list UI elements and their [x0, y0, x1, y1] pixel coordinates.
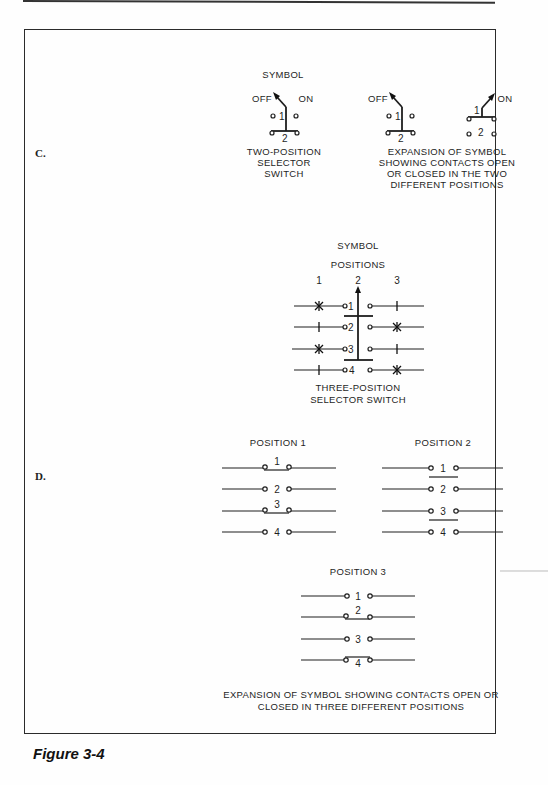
contact-terminal: [387, 114, 391, 118]
lever-arm: [393, 97, 402, 107]
contact-2-label: 2: [398, 133, 404, 144]
bottom-caption-line: CLOSED IN THREE DIFFERENT POSITIONS: [258, 701, 465, 712]
off-label: OFF: [252, 93, 272, 104]
contact-number: 4: [349, 365, 355, 376]
caption-line: TWO-POSITION: [247, 146, 321, 157]
position-number: 3: [394, 275, 400, 286]
lever-arm: [277, 97, 286, 107]
bottom-caption-line: EXPANSION OF SYMBOL SHOWING CONTACTS OPE…: [223, 689, 498, 700]
off-label: OFF: [368, 93, 388, 104]
caption-line: OR CLOSED IN THE TWO: [387, 168, 507, 179]
contact-2-label: 2: [478, 127, 484, 138]
contact-1-label: 1: [279, 111, 285, 122]
contact-number: 2: [440, 484, 446, 495]
contact-number: 4: [355, 658, 361, 669]
contact-number: 3: [440, 506, 446, 517]
caption-line: SELECTOR: [257, 157, 310, 168]
three-position-symbol: SYMBOL POSITIONS 1 2 3 1 2 3: [292, 240, 424, 405]
caption-line: THREE-POSITION: [316, 382, 401, 393]
caption-line: SWITCH: [264, 168, 303, 179]
contact-number: 1: [274, 456, 280, 467]
contact-number: 4: [440, 527, 446, 538]
contact-number: 1: [348, 301, 354, 312]
lever-arm: [482, 98, 491, 108]
position-number: 1: [316, 275, 322, 286]
position-1-view: POSITION 1 1 2 3 4: [222, 437, 336, 538]
section-label-c: C.: [35, 147, 46, 159]
position-number: 2: [355, 275, 361, 286]
on-label: ON: [299, 93, 314, 104]
contact-number: 2: [348, 322, 354, 333]
contact-terminal: [492, 117, 496, 121]
contact-2-label: 2: [282, 133, 288, 144]
contact-number: 1: [440, 463, 446, 474]
contact-terminal: [467, 117, 471, 121]
contact-terminal: [467, 132, 471, 136]
contact-1-label: 1: [474, 105, 480, 116]
position-title: POSITION 1: [250, 437, 306, 448]
contact-terminal: [295, 131, 299, 135]
two-position-symbol: SYMBOL OFF ON 1 2 TWO-POSITION SELECTOR …: [247, 69, 321, 179]
on-label: ON: [498, 93, 513, 104]
section-label-d: D.: [35, 470, 46, 482]
figure-diagram: C. D. SYMBOL OFF ON 1 2 TWO-POSITION SEL…: [0, 0, 548, 785]
contact-terminal: [410, 114, 414, 118]
contact-terminal: [294, 114, 298, 118]
contact-number: 3: [274, 499, 280, 510]
contact-1-label: 1: [395, 111, 401, 122]
symbol-title: SYMBOL: [337, 240, 378, 251]
position-title: POSITION 2: [415, 437, 471, 448]
contact-number: 2: [355, 605, 361, 616]
contact-number: 3: [348, 344, 354, 355]
symbol-title: SYMBOL: [262, 69, 303, 80]
contact-terminal: [492, 132, 496, 136]
caption-line: SELECTOR SWITCH: [310, 394, 406, 405]
contact-terminal: [386, 131, 390, 135]
positions-title: POSITIONS: [331, 259, 385, 270]
caption-line: SHOWING CONTACTS OPEN: [379, 157, 516, 168]
position-2-view: POSITION 2 1 2 3 4: [382, 437, 503, 538]
caption-line: DIFFERENT POSITIONS: [390, 179, 503, 190]
two-position-expansion: OFF 1 2 ON 1 2 EXPANSION OF SYMBOL SHOWI…: [368, 92, 515, 190]
contact-terminal: [270, 131, 274, 135]
position-title: POSITION 3: [330, 566, 386, 577]
arrow-up-icon: [355, 286, 361, 293]
position-3-view: POSITION 3 1 2 3 4: [301, 566, 548, 669]
caption-line: EXPANSION OF SYMBOL: [388, 146, 507, 157]
contact-number: 3: [355, 634, 361, 645]
contact-terminal: [271, 114, 275, 118]
contact-terminal: [411, 131, 415, 135]
contact-number: 2: [274, 484, 280, 495]
contact-number: 4: [274, 527, 280, 538]
figure-label: Figure 3-4: [33, 745, 105, 762]
contact-number: 1: [355, 591, 361, 602]
